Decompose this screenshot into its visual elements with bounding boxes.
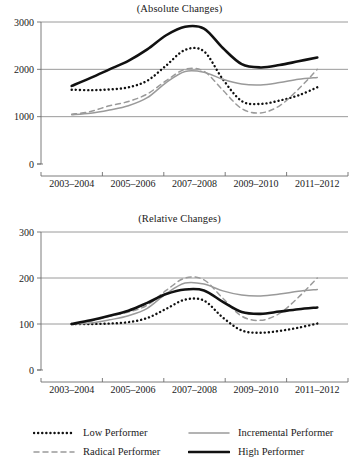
svg-text:0: 0 (29, 159, 34, 170)
svg-text:2005–2006: 2005–2006 (111, 384, 156, 395)
legend-swatch-incremental-performer (188, 428, 230, 438)
svg-text:2007–2008: 2007–2008 (172, 178, 217, 189)
series-line-high-performer (72, 26, 318, 86)
legend-label-high-performer: High Performer (238, 446, 304, 457)
absolute-axis (37, 22, 348, 176)
absolute-gridlines (41, 22, 348, 117)
legend-item-low-performer: Low Performer (33, 424, 147, 441)
legend-item-high-performer: High Performer (188, 443, 304, 460)
legend-label-radical-performer: Radical Performer (83, 446, 160, 457)
svg-text:1000: 1000 (14, 111, 34, 122)
series-line-low-performer (72, 48, 318, 104)
legend-item-radical-performer: Radical Performer (33, 443, 160, 460)
relative-y-tick-labels: 3002001000 (19, 227, 34, 376)
svg-text:2000: 2000 (14, 64, 34, 75)
panel-relative-changes: (Relative Changes) 3002001000 2003–20042… (0, 210, 359, 410)
svg-text:2007–2008: 2007–2008 (172, 384, 217, 395)
svg-text:2009–2010: 2009–2010 (233, 178, 278, 189)
legend-swatch-high-performer (188, 447, 230, 457)
legend-label-incremental-performer: Incremental Performer (238, 427, 333, 438)
svg-text:2005–2006: 2005–2006 (111, 178, 156, 189)
svg-text:100: 100 (19, 319, 34, 330)
absolute-series-group (72, 26, 318, 115)
svg-text:200: 200 (19, 273, 34, 284)
relative-axis (37, 232, 348, 382)
series-line-incremental-performer (72, 71, 318, 115)
legend-swatch-low-performer (33, 428, 75, 438)
svg-text:3000: 3000 (14, 17, 34, 28)
svg-text:2011–2012: 2011–2012 (295, 178, 340, 189)
legend-swatch-radical-performer (33, 447, 75, 457)
svg-text:2003–2004: 2003–2004 (49, 178, 94, 189)
chart-legend: Low Performer Radical Performer Incremen… (0, 420, 359, 466)
relative-changes-plot: 3002001000 2003–20042005–20062007–200820… (0, 210, 359, 410)
svg-text:300: 300 (19, 227, 34, 238)
legend-item-incremental-performer: Incremental Performer (188, 424, 333, 441)
svg-text:2011–2012: 2011–2012 (295, 384, 340, 395)
svg-text:0: 0 (29, 365, 34, 376)
svg-text:2009–2010: 2009–2010 (233, 384, 278, 395)
panel-absolute-changes: (Absolute Changes) 3000200010000 2003–20… (0, 0, 359, 205)
figure-two-panel-line-charts: (Absolute Changes) 3000200010000 2003–20… (0, 0, 359, 469)
absolute-changes-plot: 3000200010000 2003–20042005–20062007–200… (0, 0, 359, 205)
absolute-x-tick-labels: 2003–20042005–20062007–20082009–20102011… (49, 178, 339, 189)
absolute-y-tick-labels: 3000200010000 (14, 17, 34, 170)
relative-x-tick-labels: 2003–20042005–20062007–20082009–20102011… (49, 384, 339, 395)
svg-text:2003–2004: 2003–2004 (49, 384, 94, 395)
series-line-radical-performer (72, 68, 318, 114)
legend-label-low-performer: Low Performer (83, 427, 147, 438)
